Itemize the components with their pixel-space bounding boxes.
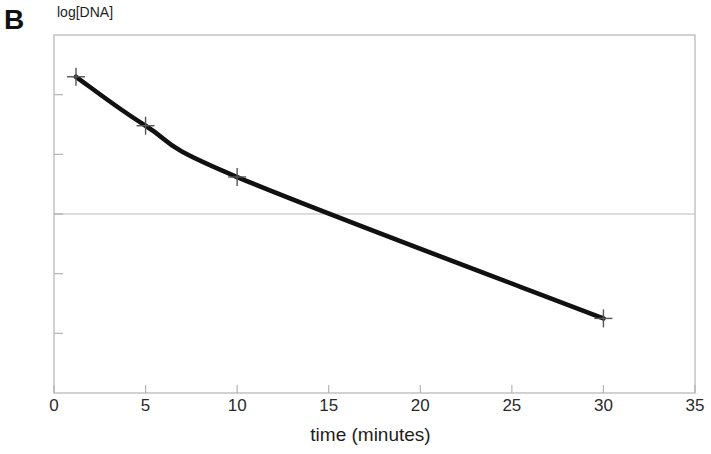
x-axis-label-text: time (minutes) [310, 424, 430, 445]
x-tick-label: 0 [49, 396, 58, 416]
x-tick-label: 35 [686, 396, 705, 416]
panel-label: B [4, 6, 24, 34]
x-tick-label: 20 [411, 396, 430, 416]
figure-panel: B log[DNA] 05101520253035 time (minutes) [0, 0, 711, 454]
x-tick-label: 30 [594, 396, 613, 416]
x-tick-label: 5 [141, 396, 150, 416]
x-axis-tick-labels: 05101520253035 [0, 396, 711, 420]
chart-plot-area [0, 0, 711, 454]
y-axis-label: log[DNA] [57, 4, 113, 20]
x-tick-label: 10 [228, 396, 247, 416]
x-tick-label: 15 [319, 396, 338, 416]
x-tick-label: 25 [502, 396, 521, 416]
x-axis-label: time (minutes) [0, 424, 711, 446]
